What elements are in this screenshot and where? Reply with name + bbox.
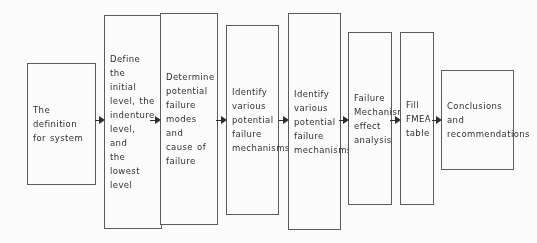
arrow-head <box>283 116 289 124</box>
flow-node-identify-mechanisms-1[interactable]: Identify various potential failure mecha… <box>226 25 279 215</box>
arrow-right-icon <box>390 116 401 125</box>
flow-node-label: Identify various potential failure mecha… <box>232 85 273 155</box>
arrow-right-icon <box>432 116 442 125</box>
arrow-head <box>436 116 442 124</box>
flow-node-identify-mechanisms-2[interactable]: Identify various potential failure mecha… <box>288 13 341 230</box>
flow-node-label: The definition for system <box>33 103 90 145</box>
arrow-right-icon <box>95 116 105 125</box>
flow-node-label: Conclusions and recommendations <box>447 99 508 141</box>
arrow-right-icon <box>339 116 349 125</box>
arrow-head <box>221 116 227 124</box>
flow-node-conclusions-recommendations[interactable]: Conclusions and recommendations <box>441 70 514 170</box>
flow-node-label: Determine potential failure modes and ca… <box>166 70 212 168</box>
arrow-head <box>395 116 401 124</box>
arrow-head <box>99 116 105 124</box>
flow-node-system-definition[interactable]: The definition for system <box>27 63 96 185</box>
flow-node-failure-mechanism-effect-analysis[interactable]: Failure Mechanism effect analysis <box>348 32 392 205</box>
flow-node-fill-fmea-table[interactable]: Fill FMEA table <box>400 32 434 205</box>
arrow-right-icon <box>216 116 227 125</box>
flow-node-determine-failure-modes[interactable]: Determine potential failure modes and ca… <box>160 13 218 225</box>
flow-node-label: Failure Mechanism effect analysis <box>354 91 386 147</box>
arrow-head <box>155 116 161 124</box>
arrow-head <box>343 116 349 124</box>
flow-node-label: Fill FMEA table <box>406 98 428 140</box>
arrow-right-icon <box>150 116 161 125</box>
flow-node-label: Identify various potential failure mecha… <box>294 87 335 157</box>
fmea-process-flowchart: The definition for system Define the ini… <box>0 0 537 243</box>
arrow-right-icon <box>278 116 289 125</box>
